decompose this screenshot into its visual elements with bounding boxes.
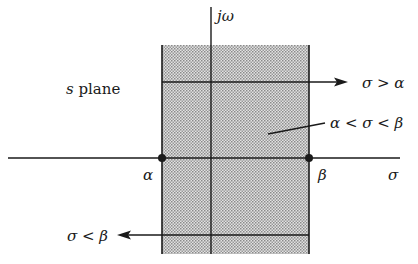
left-half-annotation: σ < β <box>67 227 108 245</box>
s-plane-diagram: s plane jω σ α β σ > α α < σ < β σ < β <box>0 0 418 264</box>
jw-axis-label: jω <box>214 7 234 25</box>
s-plane-label: s plane <box>66 80 120 98</box>
right-half-annotation: σ > α <box>362 74 404 92</box>
alpha-label: α <box>143 166 153 184</box>
strip-annotation: α < σ < β <box>330 114 404 132</box>
convergence-strip <box>162 45 309 254</box>
beta-label: β <box>317 166 327 184</box>
sigma-axis-label: σ <box>388 166 399 184</box>
alpha-point <box>158 154 166 162</box>
beta-point <box>305 154 313 162</box>
